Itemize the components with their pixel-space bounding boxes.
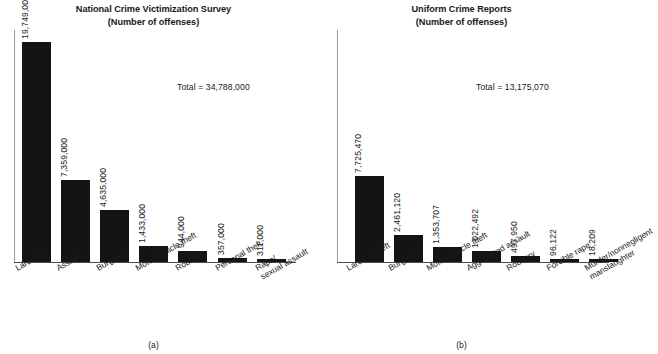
chart-title-a-line2: (Number of offenses): [0, 16, 307, 29]
bar-value-wrap: 19,749,000: [18, 38, 57, 39]
bar-slot: 7,725,470: [351, 30, 390, 262]
chart-title-b: Uniform Crime Reports (Number of offense…: [308, 3, 615, 28]
plot-area-b: 7,725,4702,461,1201,353,7071,022,492497,…: [337, 30, 609, 263]
bar-value-label: 7,725,470: [354, 134, 363, 173]
bar-slot: 4,635,000: [96, 30, 135, 262]
chart-title-b-line2: (Number of offenses): [308, 16, 615, 29]
bar-slot: 96,122: [546, 30, 585, 262]
chart-panel-a: National Crime Victimization Survey (Num…: [0, 0, 307, 354]
bar-slot: 2,461,120: [390, 30, 429, 262]
bar-slot: 1,022,492: [468, 30, 507, 262]
bar-slot: 18,209: [585, 30, 624, 262]
bar: [61, 180, 90, 262]
bar-value-label: 2,461,120: [393, 192, 402, 231]
x-tick-labels-b: Larceny/theftBurglaryMotor vehicle theft…: [337, 265, 609, 340]
bar-slot: 1,433,000: [135, 30, 174, 262]
bar-series-b: 7,725,4702,461,1201,353,7071,022,492497,…: [337, 30, 609, 262]
bar-series-a: 19,749,0007,359,0004,635,0001,433,000944…: [14, 30, 296, 262]
chart-title-b-line1: Uniform Crime Reports: [411, 4, 511, 14]
bar-value-label: 18,209: [588, 229, 597, 256]
bar-slot: 357,000: [214, 30, 253, 262]
bar-value-wrap: 7,359,000: [57, 176, 96, 177]
bar-slot: 7,359,000: [57, 30, 96, 262]
bar-value-wrap: 7,725,470: [351, 172, 390, 173]
bar-value-label: 96,122: [549, 229, 558, 256]
bar-slot: 19,749,000: [18, 30, 57, 262]
bar-value-label: 19,749,000: [21, 0, 30, 39]
chart-title-a: National Crime Victimization Survey (Num…: [0, 3, 307, 28]
x-tick-labels-a: LarcenyAssaultBurglaryMotor vehicle thef…: [14, 265, 296, 340]
plot-area-a: 19,749,0007,359,0004,635,0001,433,000944…: [14, 30, 296, 263]
bar-slot: 311,000: [253, 30, 292, 262]
bar-value-label: 1,433,000: [138, 204, 147, 243]
bar-value-label: 1,353,707: [432, 205, 441, 244]
panel-caption-a: (a): [0, 340, 319, 350]
bar-value-wrap: 4,635,000: [96, 206, 135, 207]
chart-panel-b: Uniform Crime Reports (Number of offense…: [308, 0, 615, 354]
bar: [22, 42, 51, 262]
bar-value-label: 7,359,000: [60, 138, 69, 177]
bar-value-label: 357,000: [217, 223, 226, 255]
panel-caption-b: (b): [308, 340, 625, 350]
bar-slot: 944,000: [174, 30, 213, 262]
bar-slot: 1,353,707: [429, 30, 468, 262]
bar-value-wrap: 2,461,120: [390, 231, 429, 232]
chart-title-a-line1: National Crime Victimization Survey: [76, 4, 231, 14]
bar-value-label: 4,635,000: [99, 168, 108, 207]
